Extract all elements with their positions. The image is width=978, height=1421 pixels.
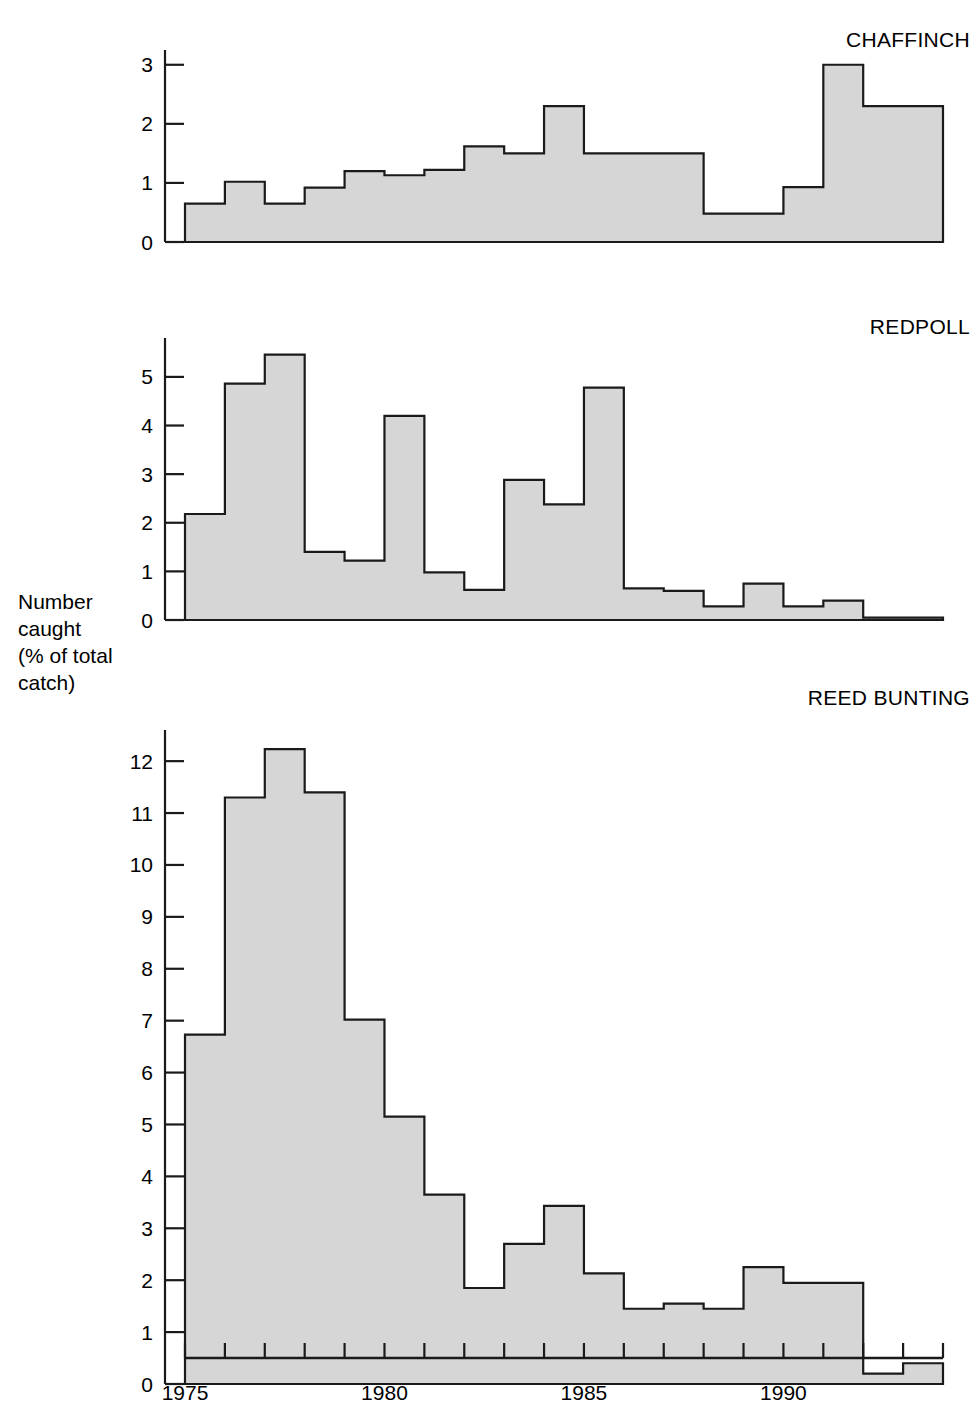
x-axis: 1975198019851990 — [0, 1338, 978, 1421]
x-axis-tick-label: 1985 — [561, 1381, 608, 1404]
y-axis-label-line-1: Number — [18, 588, 113, 615]
y-axis-tick-label: 3 — [141, 1217, 153, 1240]
y-axis-tick-label: 3 — [141, 53, 153, 76]
chaffinch-plot: 0123 — [0, 30, 978, 300]
y-axis-tick-label: 6 — [141, 1061, 153, 1084]
y-axis-tick-label: 9 — [141, 905, 153, 928]
y-axis-label-line-2: caught — [18, 615, 113, 642]
y-axis-label-line-3: (% of total — [18, 642, 113, 669]
y-axis-tick-label: 8 — [141, 957, 153, 980]
reed-bunting-plot: 0123456789101112 — [0, 710, 978, 1410]
y-axis-tick-label: 4 — [141, 1165, 153, 1188]
y-axis-tick-label: 11 — [131, 802, 153, 825]
y-axis-tick-label: 2 — [141, 1269, 153, 1292]
y-axis-tick-label: 0 — [141, 609, 153, 632]
y-axis-tick-label: 4 — [141, 414, 153, 437]
y-axis-tick-label: 1 — [141, 171, 153, 194]
chart-panel-chaffinch: CHAFFINCH 0123 — [0, 0, 978, 300]
y-axis-tick-label: 5 — [141, 1113, 153, 1136]
y-axis-tick-label: 2 — [141, 511, 153, 534]
x-axis-tick-label: 1990 — [760, 1381, 807, 1404]
y-axis-tick-label: 7 — [141, 1009, 153, 1032]
y-axis-tick-label: 3 — [141, 463, 153, 486]
redpoll-plot: 012345 — [0, 320, 978, 660]
chart-title-reed-bunting: REED BUNTING — [808, 686, 970, 710]
x-axis-tick-label: 1975 — [162, 1381, 209, 1404]
y-axis-tick-label: 2 — [141, 112, 153, 135]
y-axis-tick-label: 0 — [141, 231, 153, 254]
bar-series-area — [185, 65, 943, 242]
chart-panel-redpoll: REDPOLL 012345 — [0, 300, 978, 670]
bar-series-area — [185, 749, 943, 1384]
x-axis-tick-label: 1980 — [361, 1381, 408, 1404]
y-axis-tick-label: 1 — [141, 560, 153, 583]
y-axis-tick-label: 10 — [130, 853, 153, 876]
bar-series-area — [185, 355, 943, 620]
chart-panel-reed-bunting: REED BUNTING 0123456789101112 1975198019… — [0, 670, 978, 1421]
y-axis-tick-label: 12 — [130, 750, 153, 773]
y-axis-tick-label: 5 — [141, 365, 153, 388]
